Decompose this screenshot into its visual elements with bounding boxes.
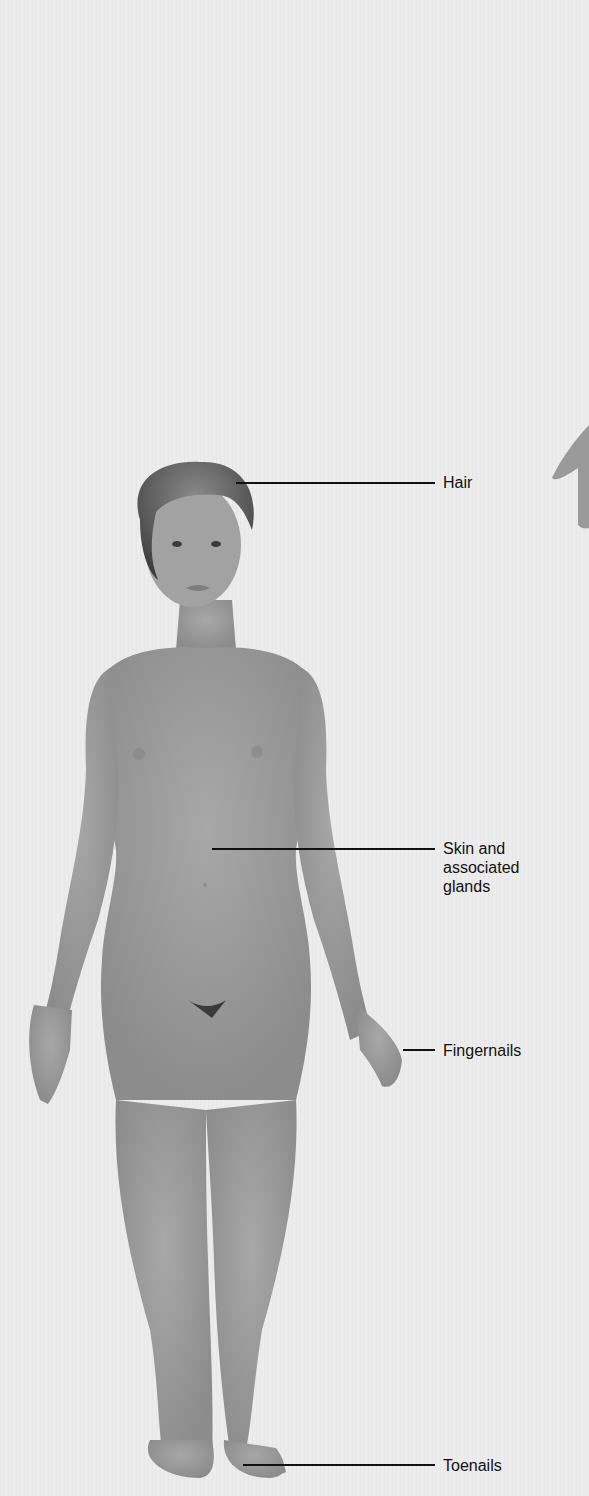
label-toenails: Toenails (443, 1456, 502, 1475)
label-fingernails: Fingernails (443, 1041, 521, 1060)
label-hair: Hair (443, 473, 472, 492)
body-silhouette (29, 600, 402, 1478)
diagram-canvas: Hair Skin and associated glands Fingerna… (0, 0, 589, 1496)
human-figure-illustration (0, 0, 589, 1496)
label-skin-and-associated-glands: Skin and associated glands (443, 839, 520, 896)
partial-hand-icon (552, 425, 589, 528)
